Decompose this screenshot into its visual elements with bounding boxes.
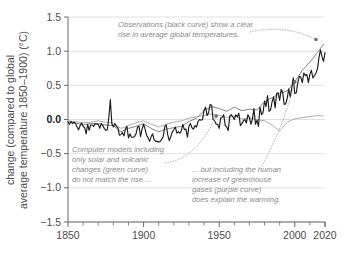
y-tick-label: 0.0 [46,113,61,125]
annotation-ghg-models-line-3: gases (purple curve) [192,185,262,194]
y-axis-label-line2: average temperature 1850–1900) (°C) [17,31,29,209]
annotation-observations: Observations (black curve) show a clear … [118,20,254,39]
y-tick-label: 1.5 [46,11,61,23]
annotation-ghg-models-line-2: increase of greenhouse [192,175,271,184]
climate-temperature-change-chart: change (compared to global average tempe… [0,0,348,260]
annotation-observations-line-2: rise in average global temperatures. [118,30,239,39]
y-tick-label: −1.5 [40,216,61,228]
x-tick-label: 1850 [56,229,80,241]
x-tick-label: 2000 [283,229,307,241]
annotation-target-dot [293,80,297,84]
y-tick-label: −1.0 [40,181,61,193]
annotation-ghg-models-line-1: ... but including the human [192,165,281,174]
annotation-natural-models-line-2: only solar and volcanic [72,155,149,164]
annotation-natural-models-line-4: do not match the rise ... [72,175,151,184]
y-axis-label: change (compared to global average tempe… [4,31,29,209]
y-axis-label-line1: change (compared to global [4,55,16,185]
annotation-target-dot [314,38,318,42]
annotation-natural-models-line-1: Computer models including [72,145,165,154]
x-tick-label: 2020 [313,229,337,241]
x-tick-label: 1950 [207,229,231,241]
x-tick-label: 1900 [132,229,156,241]
annotation-target-dot [214,114,218,118]
chart-canvas: change (compared to global average tempe… [0,0,348,260]
annotation-ghg-models-line-4: does explain the warming. [192,195,280,204]
y-tick-label: 1.0 [46,45,61,57]
annotation-observations-line-1: Observations (black curve) show a clear [118,20,254,29]
y-tick-label: 0.5 [46,79,61,91]
annotation-natural-models-line-3: changes (green curve) [72,165,148,174]
y-tick-label: −0.5 [40,147,61,159]
